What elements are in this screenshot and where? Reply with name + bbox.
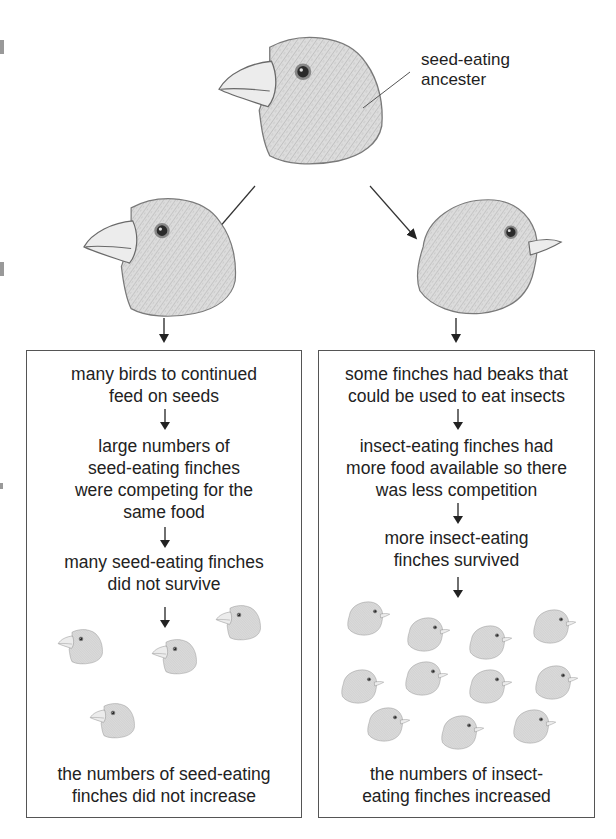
population-finch-icon: [459, 623, 517, 661]
outcome-text-line: the numbers of insect-: [319, 763, 594, 785]
population-finch-icon: [397, 615, 455, 653]
population-finch-icon: [503, 707, 561, 745]
step-text-line: more insect-eating: [319, 527, 594, 549]
page-edge-mark: [0, 483, 3, 489]
step-text-line: many birds to continued: [27, 363, 301, 385]
step-text-line: finches survived: [319, 549, 594, 571]
seed-step-3: many seed-eating finches did not survive: [27, 551, 301, 595]
population-finch-icon: [55, 627, 107, 665]
step-text-line: insect-eating finches had: [319, 435, 594, 457]
step-arrow: [452, 503, 464, 525]
population-finch-icon: [523, 607, 581, 645]
outcome-text-line: finches did not increase: [27, 785, 301, 807]
step-text-line: was less competition: [319, 479, 594, 501]
insect-step-2: insect-eating finches had more food avai…: [319, 435, 594, 501]
step-text-line: seed-eating finches: [27, 457, 301, 479]
ancestor-label: seed-eating ancester: [421, 50, 510, 90]
step-text-line: more food available so there: [319, 457, 594, 479]
step-arrow: [159, 527, 171, 549]
step-text-line: did not survive: [27, 573, 301, 595]
ancestor-label-line2: ancester: [421, 70, 510, 90]
step-text-line: were competing for the: [27, 479, 301, 501]
population-finch-icon: [459, 667, 517, 705]
step-text-line: same food: [27, 501, 301, 523]
seed-step-1: many birds to continued feed on seeds: [27, 363, 301, 407]
seed-eating-outcome-box: many birds to continued feed on seeds la…: [26, 350, 302, 818]
insect-step-1: some finches had beaks that could be use…: [319, 363, 594, 407]
population-finch-icon: [149, 637, 201, 675]
step-text-line: large numbers of: [27, 435, 301, 457]
arrow-into-right-box: [450, 318, 462, 344]
step-arrow: [159, 607, 171, 629]
seed-eating-finch-head-image: [72, 190, 252, 320]
insect-eating-outcome-box: some finches had beaks that could be use…: [318, 350, 595, 818]
outcome-text-line: eating finches increased: [319, 785, 594, 807]
seed-step-2: large numbers of seed-eating finches wer…: [27, 435, 301, 523]
arrow-into-left-box: [158, 318, 170, 344]
population-finch-icon: [331, 667, 389, 705]
step-arrow: [452, 577, 464, 599]
step-arrow: [159, 409, 171, 431]
population-finch-icon: [395, 659, 453, 697]
ancestor-label-line1: seed-eating: [421, 50, 510, 70]
page-edge-mark: [0, 262, 4, 276]
population-finch-icon: [337, 599, 395, 637]
step-text-line: many seed-eating finches: [27, 551, 301, 573]
population-finch-icon: [357, 705, 415, 743]
insect-step-3: more insect-eating finches survived: [319, 527, 594, 571]
insect-eating-finch-head-image: [386, 190, 574, 320]
step-text-line: feed on seeds: [27, 385, 301, 407]
population-finch-icon: [87, 701, 139, 739]
step-text-line: some finches had beaks that: [319, 363, 594, 385]
step-arrow: [452, 409, 464, 431]
ancestor-leader-line: [355, 70, 415, 110]
population-finch-icon: [431, 713, 489, 751]
population-finch-icon: [525, 663, 583, 701]
page-edge-mark: [0, 40, 4, 54]
seed-outcome: the numbers of seed-eating finches did n…: [27, 763, 301, 807]
population-finch-icon: [213, 603, 265, 641]
outcome-text-line: the numbers of seed-eating: [27, 763, 301, 785]
insect-outcome: the numbers of insect- eating finches in…: [319, 763, 594, 807]
step-text-line: could be used to eat insects: [319, 385, 594, 407]
